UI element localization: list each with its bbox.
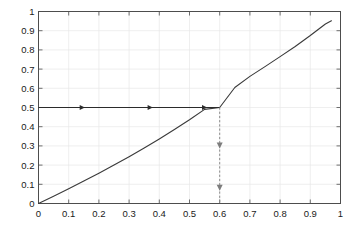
y-tick-label: 0	[29, 198, 34, 209]
arrowhead-right	[148, 105, 153, 110]
x-tick-label: 0.9	[304, 208, 317, 219]
y-tick-label: 0.7	[21, 64, 34, 75]
y-tick-label: 0.6	[21, 83, 34, 94]
y-tick-label: 0.5	[21, 102, 34, 113]
vertical-projection-path	[217, 108, 223, 204]
x-tick-label: 0.7	[243, 208, 256, 219]
x-tick-label: 0.6	[213, 208, 226, 219]
x-tick-label: 0	[36, 208, 41, 219]
x-tick-label: 0.4	[153, 208, 166, 219]
x-tick-label: 0.5	[183, 208, 196, 219]
arrowhead-down	[217, 143, 223, 149]
y-axis-tick-labels: 00.10.20.30.40.50.60.70.80.91	[21, 6, 34, 209]
y-tick-label: 1	[29, 6, 34, 17]
y-tick-label: 0.8	[21, 44, 34, 55]
arrowhead-right	[80, 105, 85, 110]
chart-figure: 00.10.20.30.40.50.60.70.80.91 00.10.20.3…	[0, 0, 353, 237]
x-tick-label: 0.1	[62, 208, 75, 219]
x-tick-label: 0.8	[273, 208, 286, 219]
y-tick-label: 0.9	[21, 25, 34, 36]
y-tick-label: 0.3	[21, 140, 34, 151]
y-tick-label: 0.2	[21, 160, 34, 171]
function-curve-path	[39, 21, 332, 204]
arrowhead-down	[217, 185, 223, 191]
y-tick-label: 0.4	[21, 121, 34, 132]
x-tick-label: 1	[338, 208, 343, 219]
plot-canvas: 00.10.20.30.40.50.60.70.80.91 00.10.20.3…	[0, 0, 353, 237]
y-tick-label: 0.1	[21, 179, 34, 190]
x-tick-label: 0.3	[122, 208, 135, 219]
x-axis-tick-labels: 00.10.20.30.40.50.60.70.80.91	[36, 208, 343, 219]
function-curve	[39, 21, 332, 204]
x-tick-label: 0.2	[92, 208, 105, 219]
